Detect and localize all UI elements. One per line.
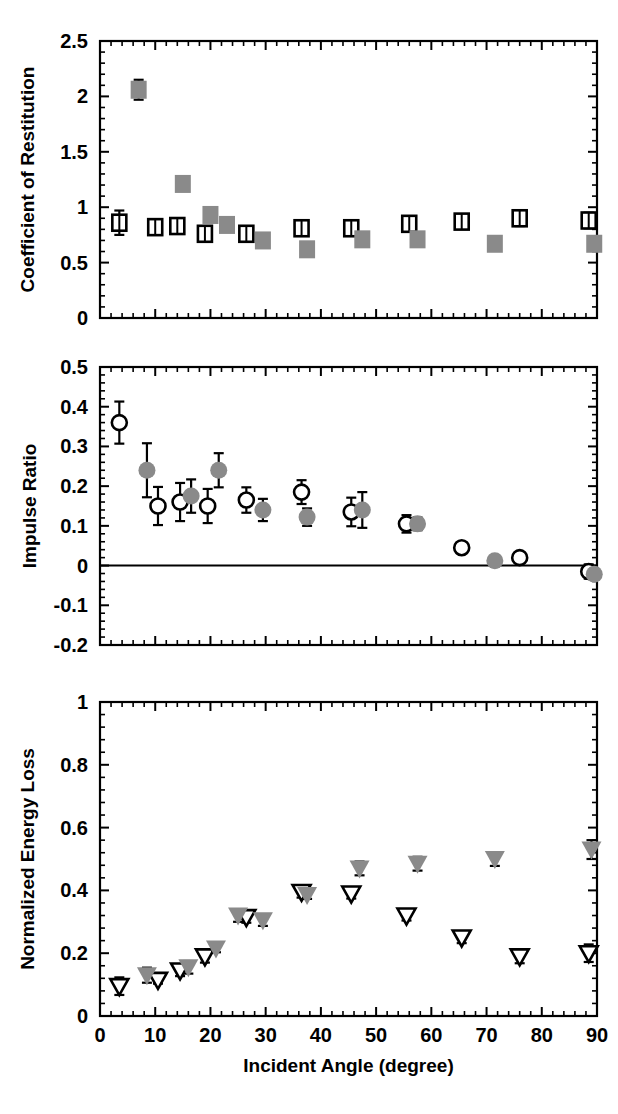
marker-open-triangle <box>453 931 471 947</box>
marker-open-circle <box>239 493 254 508</box>
data-point <box>582 212 596 228</box>
data-point <box>354 492 371 528</box>
series-open-circle <box>112 402 596 579</box>
data-point <box>239 487 254 512</box>
data-point <box>350 860 370 878</box>
plot-bottom: 00.20.40.60.81Normalized Energy Loss0102… <box>0 675 618 1114</box>
y-tick-label: 0.8 <box>60 754 88 776</box>
marker-filled-square <box>175 175 191 193</box>
y-tick-label: 0.1 <box>60 515 88 537</box>
marker-open-triangle <box>110 979 128 995</box>
data-point <box>511 949 529 965</box>
data-point <box>410 230 426 248</box>
data-point <box>299 240 315 258</box>
y-tick-label: 0 <box>77 307 88 329</box>
marker-filled-triangle <box>350 860 370 878</box>
y-axis-label: Impulse Ratio <box>19 444 40 569</box>
x-tick-label: 10 <box>144 1024 166 1046</box>
x-tick-label: 70 <box>475 1024 497 1046</box>
y-tick-label: 1 <box>77 196 88 218</box>
data-point <box>200 489 215 523</box>
x-tick-label: 50 <box>365 1024 387 1046</box>
y-tick-label: 0 <box>77 555 88 577</box>
x-tick-label: 30 <box>255 1024 277 1046</box>
plot-middle: -0.2-0.100.10.20.30.40.5Impulse Ratio <box>0 340 618 675</box>
figure-root: 00.511.522.5Coefficient of Restitution -… <box>0 0 618 1114</box>
data-point <box>210 453 227 487</box>
y-tick-label: 0.4 <box>60 396 89 418</box>
data-point <box>299 508 316 525</box>
data-point <box>175 175 191 193</box>
data-point <box>254 499 271 521</box>
y-tick-label: 0.4 <box>60 879 89 901</box>
marker-filled-circle <box>486 552 503 569</box>
plot-top: 00.511.522.5Coefficient of Restitution <box>0 0 618 340</box>
y-axis-label: Coefficient of Restitution <box>17 67 38 293</box>
marker-filled-triangle <box>485 851 505 869</box>
marker-filled-circle <box>183 488 200 505</box>
series-open-triangle-down <box>110 885 597 995</box>
series-open-square <box>112 210 595 242</box>
marker-open-circle <box>454 540 469 555</box>
marker-filled-square <box>131 81 147 99</box>
data-point <box>148 219 162 235</box>
marker-open-circle <box>294 485 309 500</box>
data-point <box>295 220 309 236</box>
data-point <box>453 931 471 947</box>
marker-filled-circle <box>254 501 271 518</box>
y-tick-label: 0.2 <box>60 475 88 497</box>
marker-filled-square <box>487 235 503 253</box>
x-tick-label: 0 <box>94 1024 105 1046</box>
data-point <box>586 235 602 253</box>
data-point <box>486 552 503 569</box>
y-tick-label: 1.5 <box>60 141 88 163</box>
plot-frame <box>100 41 597 318</box>
y-tick-label: 0.2 <box>60 942 88 964</box>
marker-open-circle <box>512 550 527 565</box>
marker-filled-square <box>219 216 235 234</box>
data-point <box>150 487 165 525</box>
marker-open-triangle <box>397 909 415 925</box>
data-point <box>397 909 415 925</box>
marker-filled-circle <box>138 462 155 479</box>
data-point <box>513 210 527 226</box>
marker-open-triangle <box>342 887 360 903</box>
data-point <box>219 216 235 234</box>
marker-filled-circle <box>586 566 603 583</box>
data-point <box>409 515 426 532</box>
data-point <box>485 851 505 869</box>
marker-filled-circle <box>210 462 227 479</box>
data-point <box>131 80 147 100</box>
marker-filled-circle <box>354 501 371 518</box>
x-tick-label: 40 <box>310 1024 332 1046</box>
panel-impulse-ratio: -0.2-0.100.10.20.30.40.5Impulse Ratio <box>0 340 618 675</box>
data-point <box>408 856 428 874</box>
y-tick-label: 0 <box>77 1005 88 1027</box>
x-axis-label: Incident Angle (degree) <box>243 1055 453 1076</box>
marker-open-circle <box>200 499 215 514</box>
y-tick-label: 0.5 <box>60 356 88 378</box>
y-tick-label: 0.3 <box>60 435 88 457</box>
marker-filled-square <box>410 230 426 248</box>
y-tick-label: 2 <box>77 85 88 107</box>
x-tick-label: 20 <box>199 1024 221 1046</box>
marker-filled-square <box>354 230 370 248</box>
x-tick-label: 90 <box>586 1024 608 1046</box>
data-point <box>455 214 469 230</box>
x-tick-label: 60 <box>420 1024 442 1046</box>
data-point <box>255 231 271 249</box>
data-point <box>112 211 126 235</box>
y-tick-label: 0.6 <box>60 817 88 839</box>
marker-filled-triangle <box>253 912 273 930</box>
data-point <box>402 216 416 232</box>
y-tick-label: 2.5 <box>60 30 88 52</box>
data-point <box>586 566 603 583</box>
marker-filled-square <box>255 231 271 249</box>
x-tick-label: 80 <box>531 1024 553 1046</box>
data-point <box>110 977 128 995</box>
data-point <box>294 480 309 504</box>
marker-filled-square <box>202 206 218 224</box>
marker-filled-square <box>586 235 602 253</box>
panel-normalized-energy-loss: 00.20.40.60.81Normalized Energy Loss0102… <box>0 675 618 1114</box>
marker-open-triangle <box>511 949 529 965</box>
